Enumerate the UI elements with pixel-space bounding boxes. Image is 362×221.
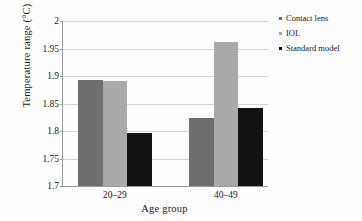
- y-tick-mark: [60, 76, 63, 77]
- y-tick-label: 1.75: [42, 154, 59, 164]
- y-tick-mark: [60, 21, 63, 22]
- legend: Contact lensIOLStandard model: [279, 12, 361, 57]
- x-axis-title: Age group: [62, 203, 267, 214]
- y-tick-mark: [60, 186, 63, 187]
- bar: [103, 81, 128, 186]
- bar: [238, 108, 263, 186]
- legend-swatch-icon: [279, 47, 282, 50]
- y-tick-label: 1.8: [47, 126, 59, 136]
- y-tick-label: 1.95: [42, 44, 59, 54]
- y-tick-mark: [60, 49, 63, 50]
- y-axis-title: Temperature range (°C): [21, 0, 32, 136]
- bar: [189, 118, 214, 186]
- legend-item[interactable]: IOL: [279, 27, 361, 39]
- bar: [214, 42, 239, 186]
- legend-item[interactable]: Standard model: [279, 42, 361, 54]
- plot-area: 1.71.751.81.851.91.952 20–2940–49: [62, 21, 268, 187]
- y-tick-mark: [60, 131, 63, 132]
- legend-swatch-icon: [279, 32, 282, 35]
- bar: [127, 133, 152, 186]
- legend-label: Standard model: [286, 43, 340, 53]
- y-tick-mark: [60, 104, 63, 105]
- legend-label: Contact lens: [286, 13, 328, 23]
- bar-chart-figure: Temperature range (°C) 1.71.751.81.851.9…: [0, 0, 362, 221]
- x-tick-label: 20–29: [103, 190, 127, 200]
- y-tick-label: 1.85: [42, 99, 59, 109]
- legend-label: IOL: [286, 28, 300, 38]
- y-tick-label: 1.7: [47, 181, 59, 191]
- y-tick-label: 2: [54, 16, 59, 26]
- y-tick-mark: [60, 159, 63, 160]
- x-tick-label: 40–49: [214, 190, 238, 200]
- legend-swatch-icon: [279, 17, 282, 20]
- bar: [78, 80, 103, 186]
- y-tick-label: 1.9: [47, 71, 59, 81]
- gridline: [63, 21, 268, 22]
- legend-item[interactable]: Contact lens: [279, 12, 361, 24]
